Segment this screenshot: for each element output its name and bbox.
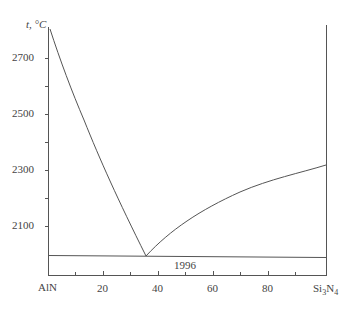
y-tick-label-2500: 2500	[12, 107, 34, 119]
eutectic-line	[48, 256, 326, 258]
x-tick-label-40: 40	[152, 282, 163, 294]
x-tick-label-60: 60	[207, 282, 218, 294]
y-tick-label-2300: 2300	[12, 163, 34, 175]
y-axis-title: t, °C	[26, 18, 46, 30]
si3n4-si: Si	[313, 282, 322, 294]
y-tick-label-2100: 2100	[12, 219, 34, 231]
x-label-si3n4: Si3N4	[313, 282, 338, 297]
x-tick-label-80: 80	[262, 282, 273, 294]
eutectic-temperature-label: 1996	[174, 259, 196, 271]
y-axis-title-text: t, °C	[26, 18, 46, 30]
si3n4-n: N	[326, 282, 334, 294]
y-ticks	[45, 59, 48, 227]
si3n4-sub4: 4	[334, 288, 338, 297]
x-label-aln: AlN	[38, 281, 57, 293]
liquidus-si3n4-curve	[146, 165, 326, 256]
x-tick-label-20: 20	[97, 282, 108, 294]
x-ticks	[76, 271, 296, 275]
y-tick-label-2700: 2700	[12, 51, 34, 63]
liquidus-aln-curve	[50, 29, 146, 256]
